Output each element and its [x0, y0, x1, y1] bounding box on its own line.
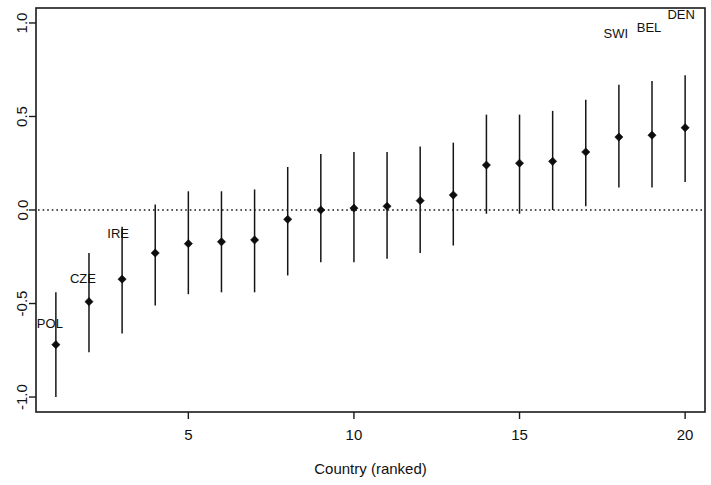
x-tick-label: 5: [184, 426, 192, 443]
chart-canvas: 1.00.50.0-0.5-1.05101520Country (ranked)…: [0, 0, 711, 485]
y-tick-label: -0.5: [14, 291, 31, 317]
x-tick-label: 20: [677, 426, 694, 443]
data-point-marker: [549, 157, 557, 165]
data-point-group: [184, 191, 192, 294]
data-point-marker: [250, 236, 258, 244]
data-point-group: [582, 100, 590, 207]
data-point-marker: [52, 341, 60, 349]
data-point-group: [515, 115, 523, 214]
data-point-marker: [416, 197, 424, 205]
data-point-group: [118, 227, 126, 334]
y-tick-label: -1.0: [14, 384, 31, 410]
y-tick-label: 1.0: [14, 13, 31, 34]
data-point-group: [52, 292, 60, 397]
data-point-marker: [151, 249, 159, 257]
data-point-marker: [482, 161, 490, 169]
y-tick-label: 0.0: [14, 200, 31, 221]
data-point-group: [615, 85, 623, 188]
x-axis-title: Country (ranked): [314, 460, 427, 477]
country-label-den: DEN: [667, 7, 694, 22]
data-point-marker: [615, 133, 623, 141]
data-point-marker: [648, 131, 656, 139]
data-point-group: [85, 253, 93, 352]
data-point-group: [416, 146, 424, 253]
country-label-swi: SWI: [604, 26, 629, 41]
data-point-marker: [85, 298, 93, 306]
data-point-group: [681, 75, 689, 182]
data-point-group: [217, 191, 225, 292]
data-point-group: [284, 167, 292, 275]
country-label-pol: POL: [37, 316, 63, 331]
data-point-marker: [515, 159, 523, 167]
data-point-group: [383, 152, 391, 259]
country-label-cze: CZE: [70, 271, 96, 286]
data-point-marker: [350, 204, 358, 212]
data-point-group: [350, 152, 358, 262]
data-point-marker: [118, 275, 126, 283]
data-point-group: [250, 189, 258, 292]
data-point-marker: [184, 240, 192, 248]
data-point-marker: [317, 206, 325, 214]
data-point-group: [648, 81, 656, 188]
data-point-marker: [681, 124, 689, 132]
data-point-group: [482, 115, 490, 214]
data-point-group: [317, 154, 325, 262]
data-point-marker: [582, 148, 590, 156]
data-point-group: [549, 111, 557, 210]
country-label-ire: IRE: [107, 226, 129, 241]
data-point-marker: [383, 202, 391, 210]
y-tick-label: 0.5: [14, 106, 31, 127]
data-point-marker: [284, 215, 292, 223]
data-point-group: [151, 204, 159, 305]
data-point-marker: [449, 191, 457, 199]
data-point-marker: [217, 238, 225, 246]
x-tick-label: 10: [346, 426, 363, 443]
country-label-bel: BEL: [637, 20, 662, 35]
x-tick-label: 15: [511, 426, 528, 443]
error-bar-chart-figure: 1.00.50.0-0.5-1.05101520Country (ranked)…: [0, 0, 711, 485]
data-point-group: [449, 143, 457, 246]
